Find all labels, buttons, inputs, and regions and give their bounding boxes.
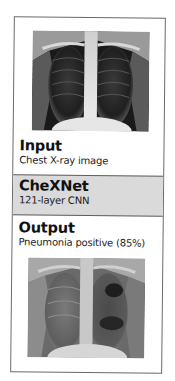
input-title: Input: [19, 137, 163, 156]
output-section: Output Pneumonia positive (85%): [12, 217, 162, 255]
chest-xray-output-icon: [27, 257, 145, 358]
input-section: Input Chest X-ray image: [13, 135, 163, 177]
output-subtitle: Pneumonia positive (85%): [18, 236, 162, 250]
model-section: CheXNet 121-layer CNN: [13, 174, 163, 217]
model-subtitle: 121-layer CNN: [19, 194, 163, 208]
model-title: CheXNet: [19, 177, 163, 196]
input-subtitle: Chest X-ray image: [19, 154, 163, 168]
output-title: Output: [19, 219, 163, 238]
pipeline-card: Input Chest X-ray image CheXNet 121-laye…: [10, 16, 166, 374]
diagram-canvas: Input Chest X-ray image CheXNet 121-laye…: [0, 0, 175, 381]
chest-xray-input-icon: [32, 30, 150, 131]
